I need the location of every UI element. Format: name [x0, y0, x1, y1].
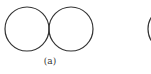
partial-circle-b	[148, 7, 151, 51]
panel-label-a: (a)	[44, 56, 56, 66]
right-circle	[49, 7, 93, 51]
figure-canvas	[0, 0, 151, 74]
left-circle	[5, 7, 49, 51]
